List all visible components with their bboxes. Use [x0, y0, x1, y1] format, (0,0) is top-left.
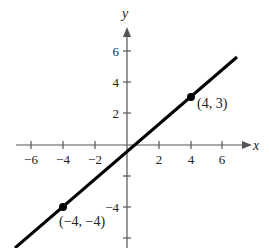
coordinate-plane: x y −6 −4 −2 2 4 6 6 4 2 −4 (4, 3) (−4, …	[0, 0, 269, 248]
x-axis-arrow-icon	[242, 141, 252, 149]
x-tick-label: −2	[88, 152, 102, 167]
point-label-4-3: (4, 3)	[197, 96, 228, 112]
x-axis-label: x	[252, 138, 260, 153]
point-neg4-neg4	[59, 203, 67, 211]
x-tick-label: 4	[188, 152, 195, 167]
y-axis-arrow-icon	[123, 27, 131, 37]
x-tick-label: 6	[219, 152, 226, 167]
y-tick-label: 4	[113, 75, 120, 90]
x-tick-label: 2	[156, 152, 163, 167]
x-tick-label: −4	[56, 152, 70, 167]
point-label-neg4-neg4: (−4, −4)	[59, 214, 105, 230]
point-4-3	[187, 93, 195, 101]
x-tick-label: −6	[24, 152, 38, 167]
y-tick-label: −4	[105, 200, 119, 215]
y-tick-label: 6	[113, 44, 120, 59]
y-axis	[123, 27, 131, 248]
y-tick-label: 2	[113, 106, 120, 121]
graph-line	[15, 57, 237, 248]
y-axis-label: y	[120, 6, 129, 21]
